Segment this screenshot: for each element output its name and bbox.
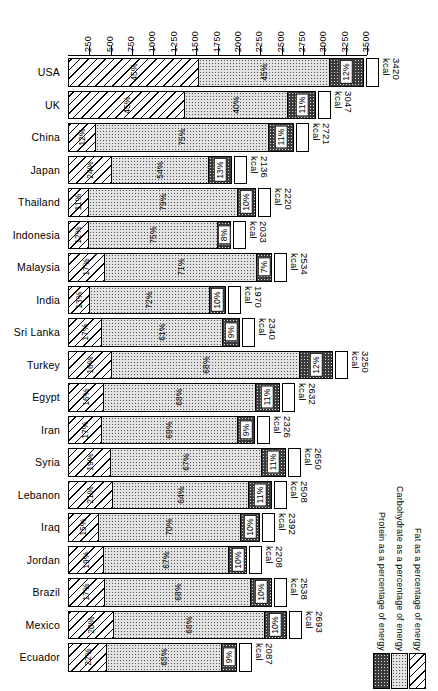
- segment-percent-label: 17%: [81, 323, 90, 341]
- kcal-callout: 2721 kcal: [296, 123, 331, 152]
- bar-segment-fat: 16%: [68, 383, 104, 412]
- bar-segment-fat: 15%: [68, 513, 99, 542]
- kcal-value-label: 2340 kcal: [257, 318, 277, 340]
- kcal-value-label: 2534 kcal: [289, 253, 309, 275]
- country-label: Turkey: [0, 349, 64, 382]
- legend-entry: Fat as a percentage of energy: [409, 528, 426, 689]
- legend: Protein as a percentage of energyCarbohy…: [372, 404, 436, 689]
- bar-segment-carb: 54%: [111, 156, 210, 185]
- stacked-bar: 12%75%11%: [68, 123, 294, 152]
- kcal-value-label: 1970 kcal: [243, 286, 263, 308]
- x-axis: 2505007501000125015001750200022502500275…: [0, 0, 438, 55]
- axis-tick-label: 250: [84, 36, 93, 52]
- stacked-bar: 17%68%10%: [68, 578, 272, 607]
- bar-segment-carb: 75%: [95, 123, 269, 152]
- country-label: Mexico: [0, 609, 64, 642]
- segment-percent-label: 16%: [82, 388, 91, 406]
- bar-segment-carb: 68%: [103, 383, 256, 412]
- segment-percent-label: 21%: [86, 486, 95, 504]
- country-label: India: [0, 284, 64, 317]
- country-label: Lebanon: [0, 479, 64, 512]
- segment-percent-label: 11%: [267, 451, 280, 474]
- kcal-callout-box: [274, 481, 287, 510]
- stacked-bar: 22%65%9%: [68, 643, 237, 672]
- axis-tick-label: 2500: [277, 31, 286, 52]
- stacked-bar: 21%64%11%: [68, 481, 272, 510]
- kcal-callout: 2538 kcal: [274, 578, 309, 607]
- bar-segment-carb: 64%: [112, 481, 249, 510]
- kcal-callout-box: [249, 546, 262, 575]
- kcal-value-label: 2087 kcal: [254, 643, 274, 665]
- bar-segment-prot: 11%: [287, 91, 316, 120]
- kcal-callout-box: [318, 91, 331, 120]
- chart-row: 17%71%7%2534 kcal: [68, 251, 367, 284]
- bar-segment-prot: 8%: [217, 221, 231, 250]
- segment-percent-label: 12%: [340, 60, 353, 84]
- chart-row: 11%79%10%2220 kcal: [68, 186, 367, 219]
- segment-percent-label: 69%: [165, 421, 174, 439]
- axis-tick-label: 3250: [341, 31, 350, 52]
- segment-percent-label: 65%: [160, 648, 169, 666]
- chart-row: 13%72%10%1970 kcal: [68, 284, 367, 317]
- kcal-callout: 2220 kcal: [258, 188, 293, 217]
- segment-percent-label: 45%: [129, 63, 138, 81]
- kcal-value-label: 3250 kcal: [350, 351, 370, 373]
- bar-segment-fat: 19%: [68, 546, 104, 575]
- segment-percent-label: 79%: [159, 193, 168, 211]
- bar-segment-fat: 17%: [68, 416, 102, 445]
- segment-percent-label: 40%: [232, 96, 241, 114]
- kcal-value-label: 3420 kcal: [381, 58, 401, 80]
- chart-row: 24%54%13%2136 kcal: [68, 154, 367, 187]
- axis-tick-label: 1500: [191, 31, 200, 52]
- stacked-bar: 20%66%10%: [68, 611, 287, 640]
- chart-row: 12%75%8%2033 kcal: [68, 219, 367, 252]
- kcal-value-label: 2326 kcal: [272, 416, 292, 438]
- bar-segment-fat: 19%: [68, 448, 111, 477]
- chart-row: 45%40%11%3047 kcal: [68, 89, 367, 122]
- bar-segment-prot: 10%: [240, 513, 260, 542]
- bar-segment-prot: 10%: [209, 286, 226, 315]
- segment-percent-label: 68%: [175, 388, 184, 406]
- segment-percent-label: 67%: [162, 551, 171, 569]
- segment-percent-label: 19%: [82, 551, 91, 569]
- segment-percent-label: 11%: [254, 483, 267, 506]
- segment-percent-label: 11%: [74, 194, 83, 211]
- kcal-callout-box: [242, 318, 255, 347]
- legend-swatch-fat: [409, 653, 426, 689]
- chart-row: 17%69%9%2326 kcal: [68, 414, 367, 447]
- stacked-bar: 17%61%9%: [68, 318, 240, 347]
- kcal-value-label: 2721 kcal: [311, 123, 331, 145]
- segment-percent-label: 11%: [275, 126, 288, 149]
- segment-percent-label: 16%: [86, 356, 95, 374]
- kcal-callout-box: [257, 416, 270, 445]
- bar-segment-carb: 68%: [111, 351, 300, 380]
- kcal-callout-box: [274, 578, 287, 607]
- kcal-callout-box: [239, 643, 252, 672]
- kcal-callout: 2208 kcal: [249, 546, 284, 575]
- kcal-callout: 3250 kcal: [335, 351, 370, 380]
- country-label: Syria: [0, 446, 64, 479]
- segment-percent-label: 10%: [231, 548, 244, 572]
- bar-segment-carb: 70%: [98, 513, 241, 542]
- bar-segment-carb: 69%: [101, 416, 238, 445]
- kcal-callout: 3420 kcal: [366, 58, 401, 87]
- segment-percent-label: 71%: [176, 258, 185, 276]
- kcal-callout: 2508 kcal: [274, 481, 309, 510]
- segment-percent-label: 19%: [85, 453, 94, 471]
- segment-percent-label: 11%: [295, 93, 308, 116]
- stacked-bar: 24%54%13%: [68, 156, 232, 185]
- kcal-callout: 2033 kcal: [233, 221, 268, 250]
- bar-segment-carb: 67%: [110, 448, 262, 477]
- kcal-callout: 2650 kcal: [288, 448, 323, 477]
- kcal-value-label: 2033 kcal: [248, 221, 268, 243]
- segment-percent-label: 70%: [165, 518, 174, 536]
- kcal-callout-box: [282, 383, 295, 412]
- stacked-bar: 16%68%11%: [68, 383, 280, 412]
- segment-percent-label: 24%: [86, 161, 95, 179]
- kcal-value-label: 2632 kcal: [297, 383, 317, 405]
- bar-segment-fat: 17%: [68, 578, 105, 607]
- kcal-callout: 2136 kcal: [234, 156, 269, 185]
- axis-tick-label: 500: [106, 36, 115, 52]
- kcal-callout-box: [366, 58, 379, 87]
- bar-segment-fat: 13%: [68, 286, 90, 315]
